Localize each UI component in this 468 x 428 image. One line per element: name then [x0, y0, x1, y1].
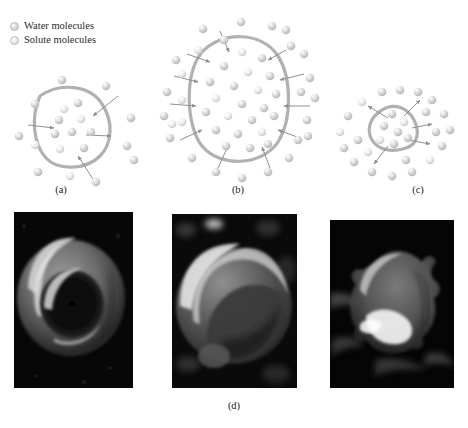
- inside-molecules-c: [376, 110, 413, 149]
- micrograph-1-svg: [14, 212, 133, 388]
- micrograph-normal-cell: [14, 212, 133, 388]
- inside-molecules-b: [202, 48, 281, 153]
- legend-item-solute: Solute molecules: [10, 34, 160, 46]
- water-sphere-icon: [10, 22, 19, 31]
- osmosis-figure: Water molecules Solute molecules: [0, 0, 468, 428]
- diagram-a-svg: [8, 72, 153, 187]
- micrograph-2-svg: [172, 214, 297, 388]
- legend-label-water: Water molecules: [24, 20, 94, 32]
- legend-label-solute: Solute molecules: [24, 34, 96, 46]
- legend-item-water: Water molecules: [10, 20, 160, 32]
- caption-a: (a): [41, 184, 81, 195]
- micrograph-crenated-cell: [330, 220, 454, 388]
- caption-d: (d): [214, 400, 254, 411]
- solute-sphere-icon: [10, 36, 19, 45]
- caption-c: (c): [398, 184, 438, 195]
- inside-molecules-a: [51, 99, 96, 154]
- diagram-panel-b: [158, 16, 318, 186]
- caption-b: (b): [218, 184, 258, 195]
- diagram-b-svg: [158, 16, 318, 186]
- legend: Water molecules Solute molecules: [10, 20, 160, 48]
- diagram-panel-c: [332, 82, 462, 187]
- micrograph-swollen-cell: [172, 214, 297, 388]
- micrograph-3-svg: [330, 220, 454, 388]
- diagram-c-svg: [332, 82, 462, 187]
- diagram-panel-a: [8, 72, 153, 187]
- outside-molecules-b: [160, 18, 320, 183]
- cell-membrane-b: [189, 37, 288, 162]
